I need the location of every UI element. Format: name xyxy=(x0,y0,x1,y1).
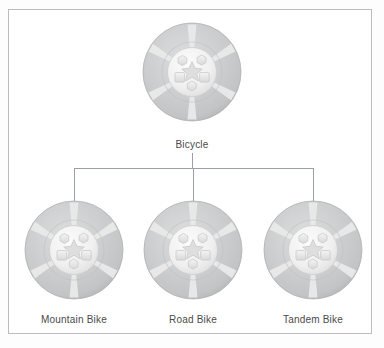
node-label-tandem-bike: Tandem Bike xyxy=(283,314,343,325)
bicycle-wheel-icon xyxy=(264,201,362,299)
node-bicycle[interactable] xyxy=(143,23,241,121)
node-road-bike[interactable] xyxy=(144,201,242,299)
bicycle-wheel-icon xyxy=(143,23,241,121)
bicycle-wheel-icon xyxy=(25,201,123,299)
node-mountain-bike[interactable] xyxy=(25,201,123,299)
node-label-road-bike: Road Bike xyxy=(169,314,217,325)
node-label-mountain-bike: Mountain Bike xyxy=(41,314,107,325)
connector-group xyxy=(74,153,313,203)
node-label-bicycle: Bicycle xyxy=(175,139,208,150)
bicycle-wheel-icon xyxy=(144,201,242,299)
diagram-root: Bicycle Mountain Bike Road Bike Tandem B… xyxy=(0,0,384,348)
diagram-canvas xyxy=(0,0,384,348)
node-tandem-bike[interactable] xyxy=(264,201,362,299)
